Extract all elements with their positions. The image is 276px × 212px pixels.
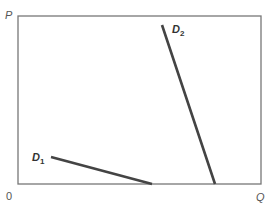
demand-curve-d1: [51, 157, 152, 184]
origin-label: 0: [6, 190, 12, 202]
demand-curve-d2: [162, 25, 215, 184]
d1-label: D1: [32, 151, 45, 166]
d2-label: D2: [172, 23, 185, 38]
demand-diagram: P 0 Q D2 D1: [0, 0, 276, 212]
x-axis-label: Q: [256, 191, 265, 203]
y-axis-label: P: [5, 9, 13, 21]
